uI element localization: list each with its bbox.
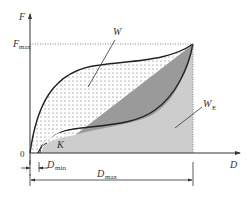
w-label: W — [113, 26, 123, 37]
we-sub: E — [212, 104, 216, 112]
fmax-sub: max — [19, 43, 32, 51]
dmin-label: D — [46, 159, 55, 170]
diagram-canvas: F D 0 F max W W E K D min D max — [0, 0, 252, 198]
y-axis-label: F — [18, 11, 26, 22]
dmax-sub: max — [105, 173, 118, 181]
origin-label: 0 — [20, 149, 25, 159]
dmin-sub: min — [55, 164, 66, 172]
k-label: K — [56, 139, 65, 150]
dmax-label: D — [96, 168, 105, 179]
x-axis-label: D — [229, 159, 238, 170]
